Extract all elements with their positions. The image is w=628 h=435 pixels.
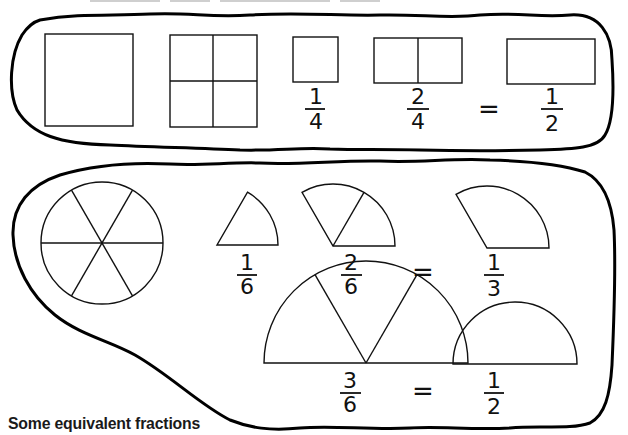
numerator: 1: [487, 368, 501, 393]
numerator: 2: [411, 84, 425, 109]
one-third-sector: [456, 186, 549, 248]
numerator: 3: [343, 368, 357, 393]
equivalent-fractions-diagram: 1 4 2 4 = 1 2 1 6 2 6 =: [0, 0, 628, 435]
fraction-two-sixths: 2 6: [341, 250, 362, 299]
cropped-heading-remnant: [90, 0, 380, 2]
square-quarters: [170, 35, 257, 127]
numerator: 1: [487, 250, 501, 275]
denominator: 4: [411, 109, 425, 134]
denominator: 3: [487, 276, 501, 301]
fraction-one-third: 1 3: [484, 250, 504, 301]
one-half-semicircle: [453, 302, 577, 364]
denominator: 2: [545, 111, 559, 136]
fraction-three-sixths: 3 6: [340, 368, 361, 417]
equals-sign: =: [412, 376, 434, 406]
fraction-one-quarter: 1 4: [305, 84, 325, 134]
numerator: 1: [545, 84, 559, 109]
one-sixth-sector: [217, 192, 278, 245]
denominator: 6: [343, 392, 357, 417]
equals-sign: =: [412, 257, 434, 287]
whole-circle-sixths: [41, 182, 163, 304]
whole-square: [45, 34, 133, 126]
fraction-one-half: 1 2: [541, 84, 563, 136]
denominator: 2: [487, 394, 501, 419]
denominator: 6: [240, 274, 254, 299]
three-sixths-semicircle: [264, 261, 468, 363]
equals-sign: =: [478, 94, 500, 124]
denominator: 6: [344, 274, 358, 299]
fraction-one-sixth: 1 6: [237, 250, 257, 299]
fraction-two-quarters: 2 4: [407, 84, 429, 134]
fraction-one-half: 1 2: [484, 368, 504, 419]
figure-caption: Some equivalent fractions: [8, 414, 200, 434]
numerator: 1: [240, 250, 254, 275]
denominator: 4: [309, 109, 323, 134]
two-quarters-rectangle: [374, 38, 462, 83]
one-quarter-square: [293, 37, 338, 82]
numerator: 1: [309, 84, 323, 109]
two-sixths-sector: [302, 184, 395, 246]
one-half-rectangle: [507, 39, 595, 84]
bottom-panel-outline: [13, 160, 615, 430]
